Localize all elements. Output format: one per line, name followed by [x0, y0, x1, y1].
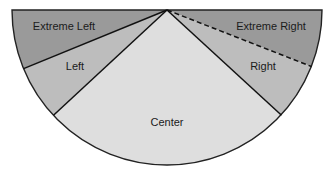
- political-spectrum-diagram: Extreme Left Left Center Right Extreme R…: [0, 0, 334, 174]
- label-center: Center: [150, 116, 183, 128]
- label-left: Left: [66, 60, 84, 72]
- label-extreme-right: Extreme Right: [236, 20, 306, 32]
- label-extreme-left: Extreme Left: [33, 20, 95, 32]
- label-right: Right: [250, 60, 276, 72]
